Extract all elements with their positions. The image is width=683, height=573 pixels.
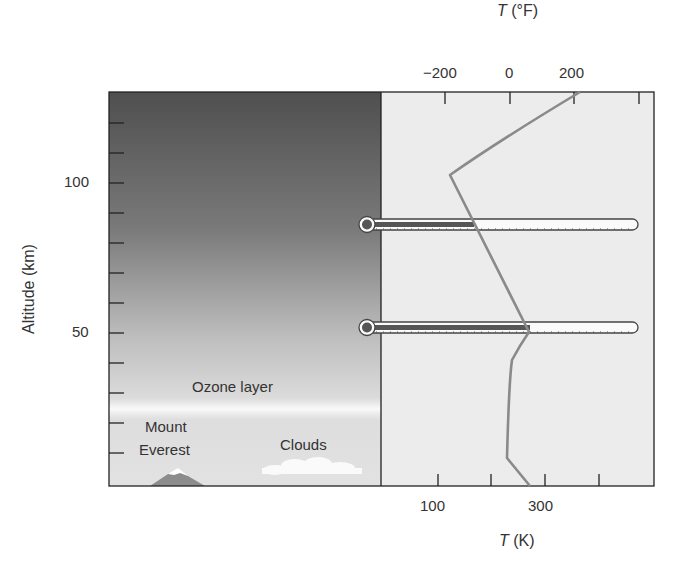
bottom-axis-unit: (K)	[513, 532, 534, 549]
top-axis-title: T (°F)	[497, 2, 538, 20]
thermometer-50km	[359, 320, 638, 336]
ozone-band	[109, 398, 381, 420]
clouds-label: Clouds	[280, 436, 327, 453]
top-axis-var: T	[497, 2, 507, 19]
bottom-axis-title: T (K)	[499, 532, 535, 550]
y-tick-label: 50	[72, 323, 89, 340]
thermometer-85km	[359, 217, 638, 233]
top-tick-label: −200	[423, 64, 457, 81]
everest-label: Everest	[139, 441, 190, 458]
y-axis-title: Altitude (km)	[20, 244, 38, 334]
top-tick-label: 200	[559, 64, 584, 81]
top-axis-unit: (°F)	[511, 2, 538, 19]
mount-label: Mount	[145, 418, 187, 435]
bottom-tick-label: 300	[528, 497, 553, 514]
bottom-tick-label: 100	[420, 497, 445, 514]
y-tick-label: 100	[64, 173, 89, 190]
plot-panel	[381, 92, 654, 486]
bottom-axis-var: T	[499, 532, 509, 549]
ozone-layer-label: Ozone layer	[192, 378, 273, 395]
chart-canvas	[0, 0, 683, 573]
top-tick-label: 0	[505, 64, 513, 81]
